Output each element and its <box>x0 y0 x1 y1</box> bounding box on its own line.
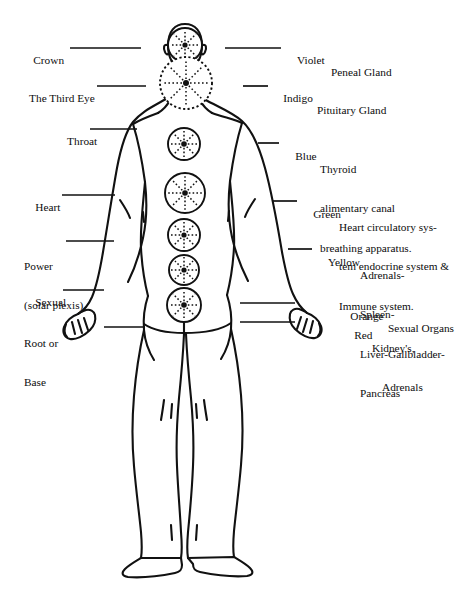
right-finger-2 <box>303 319 307 332</box>
left-knee-line-2 <box>171 404 172 418</box>
color-red-name: Red <box>354 329 372 341</box>
buttock-crease-right <box>184 323 231 333</box>
left-finger-3 <box>84 318 88 330</box>
label-third-eye-text: The Third Eye <box>29 92 95 104</box>
chakra-heart <box>165 173 205 213</box>
right-finger-3 <box>297 317 301 329</box>
arm-crease-left <box>120 200 130 218</box>
label-root: Root or Base <box>24 311 58 416</box>
gland-red-line-1: Kidney's, <box>372 342 423 355</box>
label-crown: Crown <box>22 41 64 79</box>
right-leg-inner <box>186 334 193 558</box>
label-throat-text: Throat <box>67 135 97 147</box>
right-knee-line-2 <box>196 404 197 418</box>
color-violet-name: Violet <box>297 54 325 66</box>
buttock-crease-left <box>144 324 184 333</box>
label-power-text: Power <box>24 260 83 273</box>
chakra-throat <box>168 128 200 160</box>
right-leg-outer <box>231 329 243 557</box>
elbow-hint-left <box>143 212 144 222</box>
left-foot <box>123 558 182 577</box>
right-finger-1 <box>310 321 313 333</box>
right-knee-line-1 <box>204 400 207 420</box>
left-leg-inner <box>177 334 184 558</box>
color-yellow-name: Yellow <box>328 256 360 268</box>
gland-violet-line-1: Peneal Gland <box>331 66 392 79</box>
right-foot <box>188 557 252 576</box>
color-violet: Violet <box>286 41 325 79</box>
color-red: Red <box>343 316 373 354</box>
color-green: Green <box>302 195 341 233</box>
chakra-wheels <box>160 28 212 322</box>
color-green-name: Green <box>313 208 341 220</box>
label-throat: Throat <box>56 122 97 160</box>
gland-indigo: Pituitary Gland <box>317 79 386 142</box>
left-ankle-line <box>171 525 172 540</box>
gland-green-line-1: Heart circulatory sys- <box>339 221 449 234</box>
elbow-hint-right <box>228 211 229 221</box>
gland-indigo-line-1: Pituitary Gland <box>317 104 386 117</box>
color-yellow: Yellow <box>317 243 360 281</box>
color-blue: Blue <box>284 137 317 175</box>
right-ankle-line <box>196 525 197 540</box>
color-indigo: Indigo <box>272 79 313 117</box>
chakra-power <box>168 219 200 251</box>
label-heart: Heart <box>24 188 60 226</box>
left-leg-outer <box>133 330 145 558</box>
chakra-diagram: Crown The Third Eye Throat Heart Power (… <box>0 0 474 594</box>
gland-red: Kidney's, Adrenals <box>372 316 423 421</box>
gland-red-line-2: Adrenals <box>372 381 423 394</box>
gland-blue-line-1: Thyroid <box>320 163 412 176</box>
gland-yellow-line-1: Adrenals- <box>360 269 445 282</box>
label-root-text: Root or <box>24 337 58 350</box>
chakra-third-eye <box>160 57 212 109</box>
label-heart-text: Heart <box>35 201 60 213</box>
left-knee-line-1 <box>161 400 164 420</box>
color-blue-name: Blue <box>295 150 316 162</box>
chakra-sexual <box>169 255 199 285</box>
label-sexual-text: Sexual <box>35 296 66 308</box>
chakra-root <box>167 288 201 322</box>
label-root-sub: Base <box>24 376 58 389</box>
color-indigo-name: Indigo <box>283 92 313 104</box>
arm-crease-right <box>245 199 255 217</box>
right-thumb <box>318 323 320 336</box>
label-crown-text: Crown <box>33 54 64 66</box>
label-third-eye: The Third Eye <box>18 79 95 117</box>
